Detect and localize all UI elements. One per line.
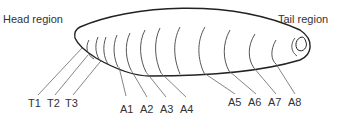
segment-label-a8: A8 xyxy=(288,96,301,108)
segment-label-t1: T1 xyxy=(28,97,41,109)
segment-label-a7: A7 xyxy=(268,96,281,108)
segment-label-a6: A6 xyxy=(248,96,261,108)
head-region-label: Head region xyxy=(3,13,63,25)
segment-label-t2: T2 xyxy=(47,97,60,109)
segment-label-a5: A5 xyxy=(228,96,241,108)
segment-label-a3: A3 xyxy=(160,103,173,115)
segment-label-a2: A2 xyxy=(140,103,153,115)
segment-label-t3: T3 xyxy=(65,97,78,109)
leader-lines xyxy=(38,48,295,97)
tail-region-label: Tail region xyxy=(278,13,328,25)
segment-label-a1: A1 xyxy=(120,103,133,115)
tail-spiracle xyxy=(296,37,307,51)
segment-label-a4: A4 xyxy=(180,103,193,115)
